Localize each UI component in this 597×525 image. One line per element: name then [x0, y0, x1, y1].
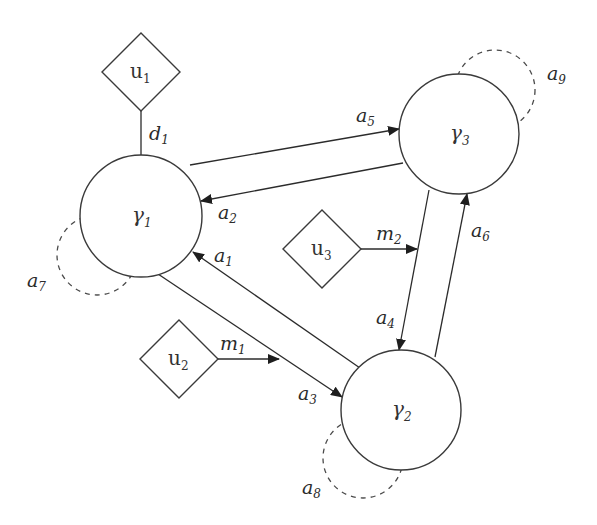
node-u2: u2	[140, 320, 218, 398]
label-a8: a8	[302, 476, 321, 501]
node-u1: u1	[102, 33, 180, 111]
network-diagram: γ1 γ2 γ3 u1 u2 u3 d1 a5 a2 a1 m2 a4 a6 m…	[0, 0, 597, 525]
node-gamma3: γ3	[399, 74, 519, 194]
label-a1: a1	[214, 244, 233, 269]
label-m2: m2	[376, 222, 402, 247]
edge-a4	[399, 190, 429, 350]
label-a4: a4	[376, 306, 395, 331]
label-a6: a6	[471, 219, 490, 244]
label-a7: a7	[27, 269, 46, 294]
node-u3: u3	[283, 210, 361, 288]
edge-a2	[201, 163, 403, 201]
label-a9: a9	[547, 62, 566, 87]
label-a3: a3	[298, 382, 317, 407]
edge-a6	[435, 194, 467, 357]
label-a5: a5	[356, 104, 375, 129]
label-m1: m1	[220, 332, 246, 357]
label-d1: d1	[149, 122, 169, 147]
edge-a5	[190, 129, 399, 165]
label-a2: a2	[218, 201, 237, 226]
node-gamma2: γ2	[341, 350, 461, 470]
node-gamma1: γ1	[80, 155, 202, 277]
